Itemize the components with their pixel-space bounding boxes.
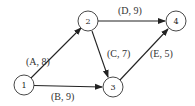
- node-1: 1: [14, 75, 34, 95]
- edge-1-2: [31, 28, 81, 78]
- node-3: 3: [103, 77, 123, 97]
- network-diagram: (A, 8) (B, 9) (C, 7) (D, 9) (E, 5) 1 2 3…: [0, 0, 195, 106]
- edge-label-A: (A, 8): [26, 56, 50, 68]
- node-4: 4: [166, 11, 186, 31]
- node-3-label: 3: [110, 83, 115, 92]
- edge-2-3: [92, 31, 108, 77]
- edge-1-3: [34, 86, 102, 88]
- node-2-label: 2: [85, 17, 90, 26]
- edge-label-B: (B, 9): [51, 91, 74, 103]
- node-2: 2: [78, 11, 98, 31]
- node-4-label: 4: [173, 17, 178, 26]
- edge-label-D: (D, 9): [118, 5, 142, 17]
- node-1-label: 1: [21, 81, 26, 90]
- edge-label-E: (E, 5): [150, 48, 173, 60]
- edge-label-C: (C, 7): [107, 48, 130, 60]
